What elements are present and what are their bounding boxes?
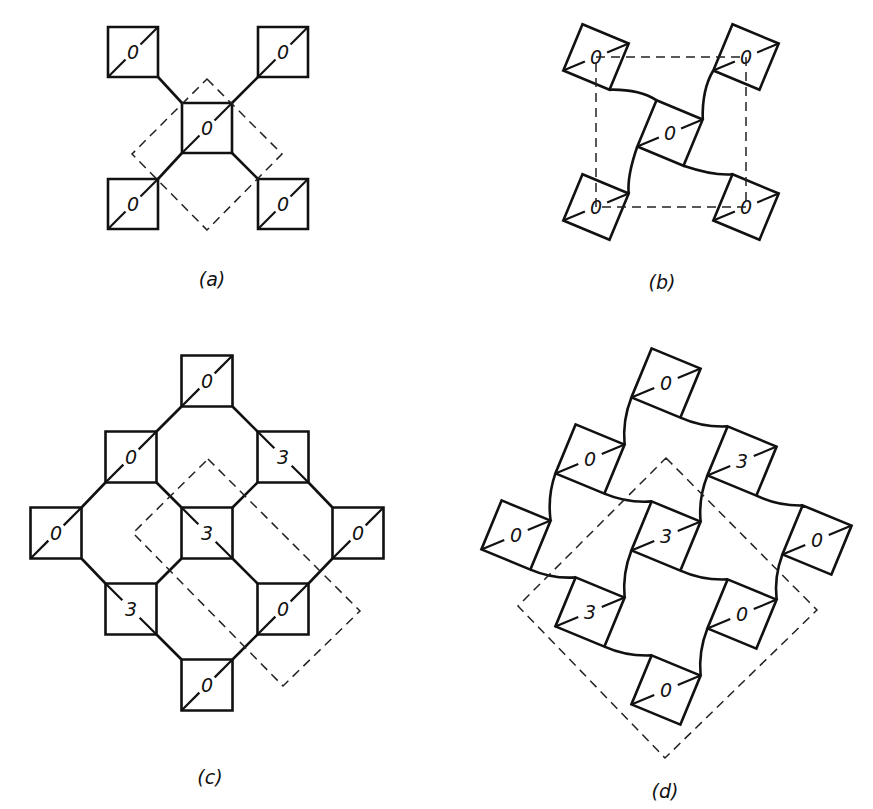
orientation-line (140, 618, 157, 635)
bond-line (232, 153, 258, 179)
orientation-line (182, 389, 200, 407)
square-label: 0 (584, 448, 596, 470)
panel-c: 003030300 (31, 356, 384, 711)
bond-line (157, 483, 182, 508)
panel-b: 00000 (563, 24, 778, 239)
square-label: 0 (201, 117, 213, 139)
square-unit: 0 (481, 500, 550, 569)
bond-line (700, 628, 707, 675)
panel-a: 00000 (108, 27, 308, 230)
square-unit: 0 (182, 103, 232, 153)
orientation-line (108, 212, 126, 230)
bond-line (703, 70, 714, 119)
square-label: 0 (201, 674, 213, 696)
panel-d: 003030300 (481, 348, 851, 758)
bond-line (158, 77, 182, 103)
square-label: 3 (277, 446, 289, 468)
orientation-line (258, 60, 276, 78)
square-label: 0 (811, 529, 823, 551)
orientation-line (333, 541, 351, 559)
square-label: 0 (127, 41, 139, 63)
orientation-line (215, 356, 233, 374)
orientation-line (291, 584, 309, 602)
square-unit: 0 (182, 356, 233, 407)
square-unit: 0 (258, 584, 309, 635)
bond-line (624, 397, 631, 444)
unit-cell-outline (132, 79, 282, 230)
bond-line (232, 77, 258, 103)
bond-line (233, 559, 258, 584)
bond-line (756, 496, 802, 506)
bond-line (683, 166, 732, 175)
bond-line (604, 494, 651, 502)
square-label: 0 (660, 372, 672, 394)
square-unit: 3 (106, 584, 157, 635)
caption-a: (a) (199, 268, 225, 290)
bond-line (82, 559, 106, 584)
square-label: 0 (201, 370, 213, 392)
square-unit: 0 (106, 432, 157, 483)
square-unit: 0 (31, 508, 82, 559)
bond-line (233, 407, 258, 432)
square-unit: 0 (707, 579, 776, 648)
bond-line (609, 90, 656, 101)
bond-line (82, 483, 106, 508)
square-unit: 0 (555, 424, 624, 493)
structure-figure: 00000 00000 003030300 003030300 (a) (b) … (0, 0, 873, 809)
square-unit: 0 (182, 660, 233, 711)
caption-d: (d) (652, 780, 679, 802)
orientation-line (106, 584, 123, 601)
square-unit: 3 (631, 501, 700, 570)
square-unit: 0 (258, 27, 308, 77)
square-label: 0 (510, 524, 522, 546)
square-unit: 0 (631, 348, 700, 417)
orientation-line (258, 617, 276, 635)
orientation-line (291, 27, 309, 45)
orientation-line (139, 432, 157, 450)
bond-line (550, 473, 556, 520)
bond-line (158, 153, 182, 179)
square-label: 3 (736, 450, 748, 472)
square-unit: 0 (258, 179, 308, 229)
square-unit: 3 (182, 508, 233, 559)
square-label: 3 (125, 598, 137, 620)
orientation-line (141, 179, 159, 197)
square-label: 3 (660, 525, 672, 547)
orientation-line (258, 432, 275, 449)
square-label: 0 (125, 446, 137, 468)
square-unit: 0 (108, 27, 158, 77)
bond-line (628, 146, 637, 193)
orientation-line (258, 212, 276, 230)
square-label: 0 (664, 122, 676, 144)
caption-c: (c) (197, 766, 222, 788)
orientation-line (64, 508, 82, 526)
square-label: 0 (277, 41, 289, 63)
square-unit: 0 (637, 100, 702, 165)
orientation-line (291, 179, 309, 197)
orientation-line (108, 60, 126, 78)
bond-line (530, 570, 575, 578)
square-unit: 3 (555, 577, 624, 646)
square-unit: 0 (333, 508, 384, 559)
orientation-line (31, 541, 49, 559)
bond-line (309, 483, 333, 508)
bond-line (157, 407, 182, 432)
orientation-line (366, 508, 384, 526)
orientation-line (182, 136, 200, 154)
square-label: 3 (584, 601, 596, 623)
square-unit: 0 (782, 505, 851, 574)
bond-line (680, 418, 727, 427)
square-unit: 3 (707, 426, 776, 495)
orientation-line (141, 27, 159, 45)
bond-line (680, 571, 727, 580)
square-label: 0 (50, 522, 62, 544)
square-unit: 0 (631, 655, 700, 724)
square-label: 0 (277, 193, 289, 215)
orientation-line (106, 465, 124, 483)
orientation-line (215, 103, 233, 121)
square-label: 0 (277, 598, 289, 620)
bond-line (776, 554, 782, 599)
square-label: 0 (660, 679, 672, 701)
square-unit: 0 (108, 179, 158, 229)
orientation-line (292, 466, 309, 483)
